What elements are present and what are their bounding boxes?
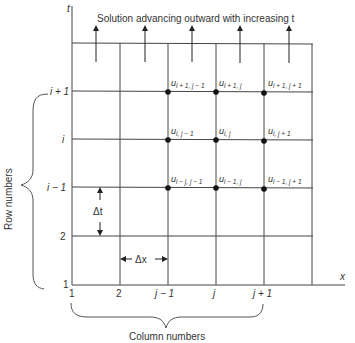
svg-text:ui, j: ui, j — [219, 126, 231, 138]
svg-text:Δx: Δx — [135, 254, 147, 265]
diagram-title: Solution advancing outward with increasi… — [97, 13, 295, 24]
svg-text:ui − j, j − 1: ui − j, j − 1 — [171, 174, 203, 186]
svg-text:ui + 1, j: ui + 1, j — [219, 78, 242, 90]
column-brace-label: Column numbers — [129, 331, 205, 342]
node-labels: ui + 1, j − 1 ui + 1, j ui + 1, j + 1 ui… — [171, 78, 302, 186]
x-axis-label: x — [339, 271, 346, 282]
svg-text:ui + 1, j − 1: ui + 1, j − 1 — [171, 78, 205, 90]
svg-text:ui, j + 1: ui, j + 1 — [268, 126, 291, 138]
svg-text:j: j — [211, 288, 216, 299]
svg-text:i + 1: i + 1 — [50, 86, 69, 97]
column-lines — [120, 43, 312, 285]
svg-text:j + 1: j + 1 — [251, 288, 272, 299]
finite-difference-grid: Solution advancing outward with increasi… — [0, 0, 355, 343]
row-brace — [21, 94, 48, 289]
row-labels: i + 1 i i − 1 2 1 — [47, 86, 69, 290]
column-labels: 1 2 j − 1 j j + 1 — [69, 288, 272, 299]
advance-arrows — [96, 28, 289, 63]
delta-x-indicator: Δx — [123, 254, 165, 265]
t-axis-label: t — [67, 3, 71, 14]
svg-text:2: 2 — [116, 288, 122, 299]
svg-text:ui − 1, j: ui − 1, j — [219, 174, 242, 186]
svg-text:ui, j − 1: ui, j − 1 — [171, 126, 194, 138]
svg-text:ui − 1, j + 1: ui − 1, j + 1 — [268, 174, 302, 186]
svg-text:Δt: Δt — [93, 206, 103, 217]
svg-text:j − 1: j − 1 — [153, 288, 174, 299]
svg-text:ui + 1, j + 1: ui + 1, j + 1 — [268, 78, 302, 90]
svg-text:2: 2 — [60, 231, 66, 242]
svg-text:i − 1: i − 1 — [47, 182, 66, 193]
svg-text:i: i — [62, 134, 65, 145]
column-brace — [71, 303, 263, 328]
svg-text:1: 1 — [69, 288, 75, 299]
row-lines — [72, 91, 313, 236]
row-brace-label: Row numbers — [3, 168, 14, 230]
delta-t-indicator: Δt — [93, 190, 103, 233]
